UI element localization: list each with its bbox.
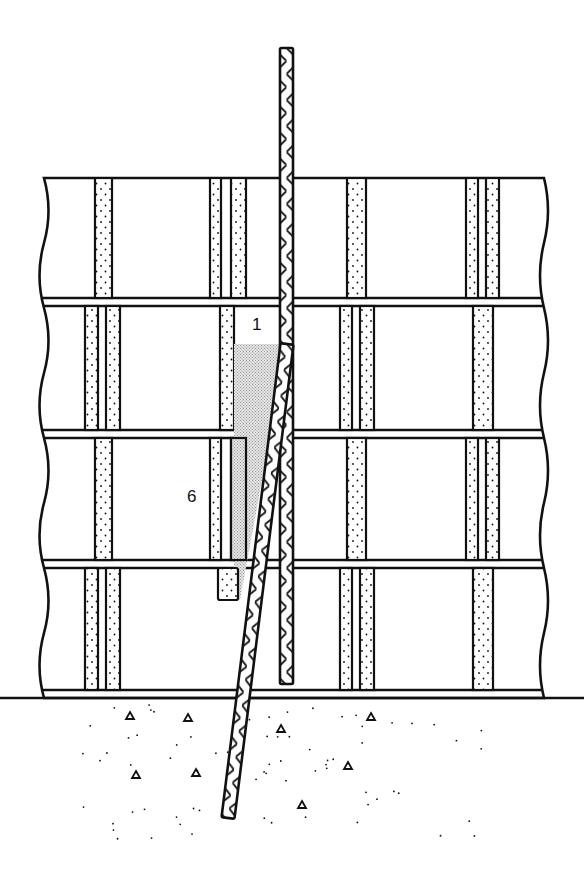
rod-label-1: 1 [252, 316, 261, 333]
wall-diagram [0, 0, 584, 887]
ground-soil [82, 704, 482, 839]
rod-label-6: 6 [187, 488, 196, 505]
